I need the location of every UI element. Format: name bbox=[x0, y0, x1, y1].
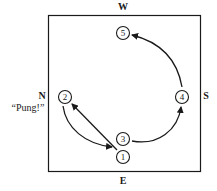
seat-1: 1 bbox=[117, 151, 130, 164]
pung-call-label: “Pung!” bbox=[12, 102, 45, 113]
seat-3: 3 bbox=[117, 133, 130, 146]
seat-2-number: 2 bbox=[63, 92, 68, 102]
direction-north-label: N bbox=[38, 90, 46, 101]
seat-3-number: 3 bbox=[121, 134, 126, 144]
arrow-3-to-4 bbox=[132, 107, 181, 142]
arrow-2-to-1 bbox=[63, 106, 112, 147]
direction-south-label: S bbox=[203, 90, 209, 101]
direction-east-label: E bbox=[120, 175, 127, 186]
seat-5-number: 5 bbox=[121, 28, 126, 38]
direction-west-label: W bbox=[118, 1, 128, 12]
seat-4-number: 4 bbox=[180, 92, 185, 102]
seat-1-number: 1 bbox=[121, 152, 126, 162]
arrow-4-to-5 bbox=[132, 35, 182, 87]
mahjong-turn-diagram: W E N S “Pung!” 5 2 4 3 1 bbox=[0, 0, 217, 191]
seat-2: 2 bbox=[59, 91, 72, 104]
seat-4: 4 bbox=[176, 91, 189, 104]
seat-5: 5 bbox=[117, 27, 130, 40]
